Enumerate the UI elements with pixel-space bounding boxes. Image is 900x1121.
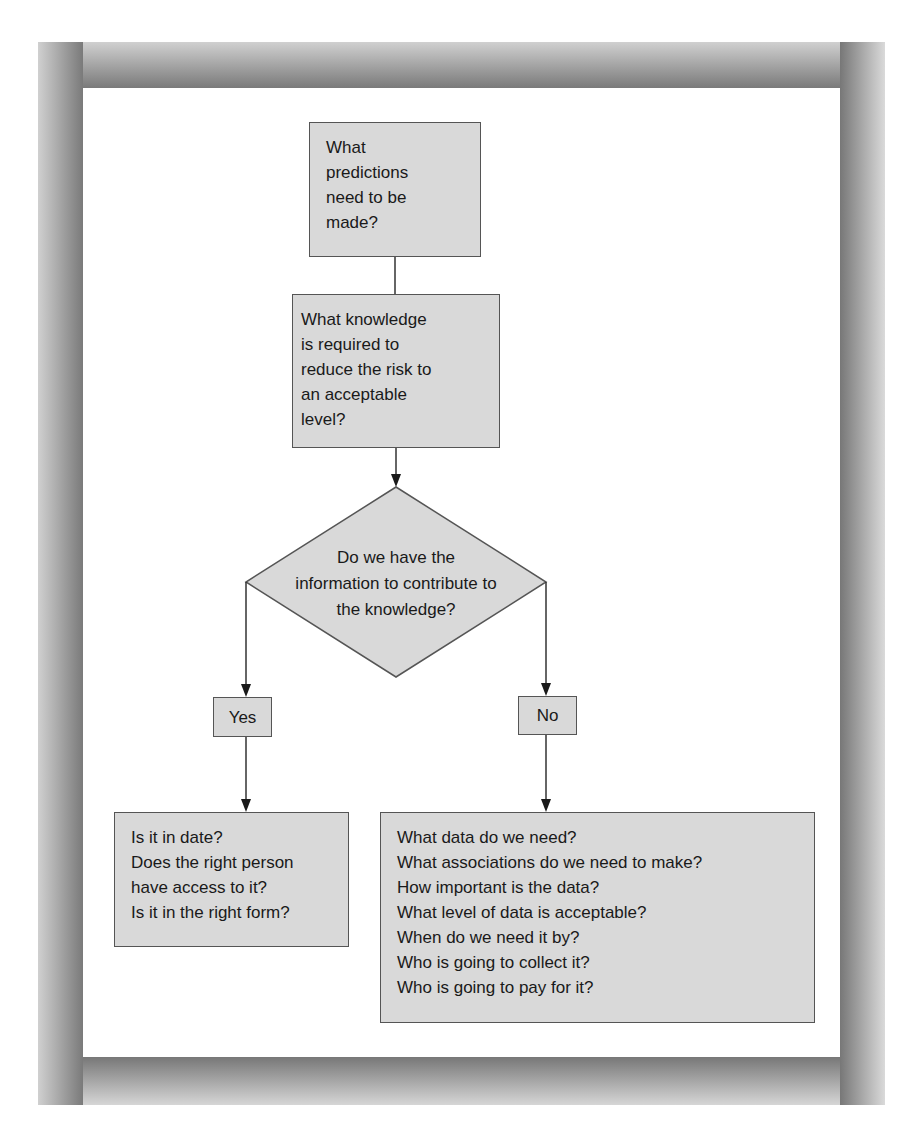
node-yes: Yes	[213, 697, 272, 737]
yes-label: Yes	[229, 705, 257, 730]
node-text-line: What data do we need?	[397, 825, 814, 850]
node-text-line: When do we need it by?	[397, 925, 814, 950]
node-no: No	[518, 696, 577, 735]
node-knowledge: What knowledge is required to reduce the…	[292, 294, 500, 448]
node-text-line: Do we have the	[246, 545, 546, 571]
node-text-line: Who is going to pay for it?	[397, 975, 814, 1000]
frame-shade-top	[38, 42, 885, 88]
node-text-line: What	[326, 135, 480, 160]
frame-shade-left	[38, 42, 83, 1105]
node-text-line: Is it in the right form?	[131, 900, 348, 925]
node-predictions: What predictions need to be made?	[309, 122, 481, 257]
node-text-line: What level of data is acceptable?	[397, 900, 814, 925]
node-decision-text: Do we have the information to contribute…	[246, 545, 546, 623]
node-text-line: made?	[326, 210, 480, 235]
node-yes-detail: Is it in date? Does the right person hav…	[114, 812, 349, 947]
node-text-line: Is it in date?	[131, 825, 348, 850]
node-no-detail: What data do we need? What associations …	[380, 812, 815, 1023]
frame-shade-right	[840, 42, 885, 1105]
node-text-line: Does the right person	[131, 850, 348, 875]
node-text-line: information to contribute to	[246, 571, 546, 597]
node-text-line: How important is the data?	[397, 875, 814, 900]
node-text-line: is required to	[301, 332, 499, 357]
node-text-line: What associations do we need to make?	[397, 850, 814, 875]
node-text-line: predictions	[326, 160, 480, 185]
frame-shade-bottom	[38, 1057, 885, 1105]
node-text-line: reduce the risk to	[301, 357, 499, 382]
node-text-line: have access to it?	[131, 875, 348, 900]
no-label: No	[537, 703, 559, 728]
node-text-line: level?	[301, 407, 499, 432]
node-text-line: an acceptable	[301, 382, 499, 407]
node-text-line: What knowledge	[301, 307, 499, 332]
node-text-line: the knowledge?	[246, 597, 546, 623]
node-text-line: Who is going to collect it?	[397, 950, 814, 975]
node-text-line: need to be	[326, 185, 480, 210]
